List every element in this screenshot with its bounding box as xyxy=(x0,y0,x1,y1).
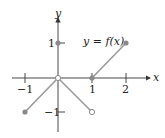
tick-label-y-1: 1 xyxy=(48,37,55,50)
tick-label-x-neg1: −1 xyxy=(17,83,33,96)
closed-point-neg1-neg1 xyxy=(22,109,27,114)
function-graph: y x −1 1 2 1 −1 y = f(x) xyxy=(0,0,165,138)
y-axis-label: y xyxy=(54,7,62,20)
closed-point-0-1 xyxy=(55,40,60,45)
tick-label-y-neg1: −1 xyxy=(44,106,60,119)
segment-middle xyxy=(58,78,92,112)
segment-right xyxy=(92,43,126,78)
open-point-1-neg1 xyxy=(89,109,94,114)
x-axis-label: x xyxy=(153,71,160,84)
closed-point-2-1 xyxy=(123,40,128,45)
open-point-origin xyxy=(55,75,60,80)
tick-label-x-2: 2 xyxy=(122,83,129,96)
tick-label-x-1: 1 xyxy=(89,83,96,96)
function-label: y = f(x) xyxy=(82,35,124,48)
closed-point-1-0 xyxy=(89,75,94,80)
